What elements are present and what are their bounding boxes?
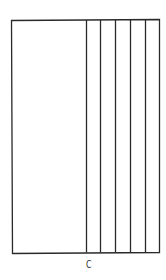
label-c: C: [86, 259, 92, 270]
outer-rectangle: [12, 20, 160, 254]
partitioned-rectangle-diagram: [0, 0, 166, 280]
vertical-dividers: [87, 20, 146, 253]
